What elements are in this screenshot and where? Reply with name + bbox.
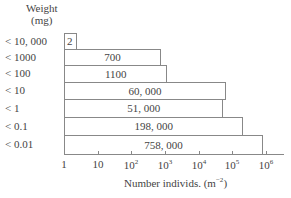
x-tick-label: 1 [61,158,67,170]
category-label: < 0.01 [0,135,67,154]
y-axis-title-line2: (mg) [26,14,58,26]
x-axis-title: Number individs. (m−2) [0,176,291,189]
y-axis-title: Weight (mg) [26,2,58,26]
x-tick [98,151,99,155]
bar: 198, 000 [64,117,243,136]
category-label: < 0.1 [0,117,67,135]
x-axis-line [64,154,284,155]
x-tick [232,151,233,155]
x-tick-label: 106 [259,158,274,171]
x-tick [131,151,132,155]
bar: 2 [64,33,77,50]
y-axis-title-line1: Weight [26,2,58,14]
category-label: < 10 [0,82,67,99]
bar: 1100 [64,65,167,83]
x-tick [199,151,200,155]
bar: 60, 000 [64,82,226,100]
x-tick-label: 10 [93,158,104,170]
x-tick-label: 105 [225,158,240,171]
bar: 758, 000 [64,135,263,155]
x-tick [266,151,267,155]
x-tick-label: 104 [192,158,207,171]
x-tick-label: 102 [124,158,139,171]
category-label: < 100 [0,65,67,82]
bar: 700 [64,49,161,66]
category-label: < 1000 [0,49,67,65]
x-tick [64,151,65,155]
x-tick-label: 103 [158,158,173,171]
x-tick [165,151,166,155]
category-label: < 10, 000 [0,33,67,49]
bar: 51, 000 [64,99,223,118]
category-label: < 1 [0,99,67,117]
